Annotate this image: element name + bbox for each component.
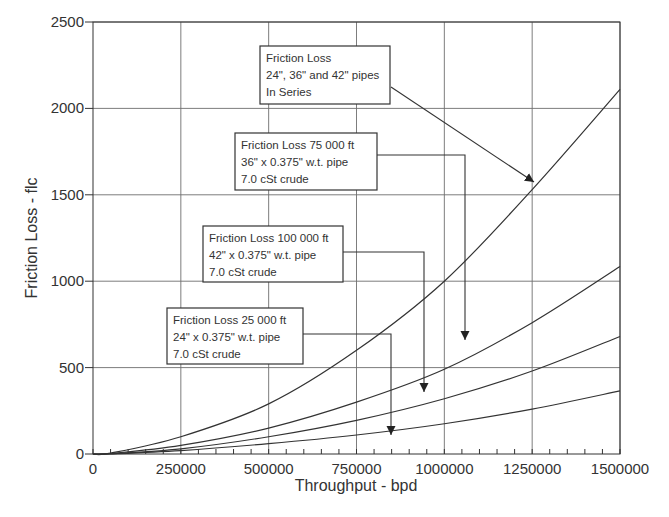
callout-arrow — [377, 155, 465, 340]
callout-text-line: In Series — [266, 86, 312, 98]
callout-text-line: 7.0 cSt crude — [241, 173, 309, 185]
callout-annotations: Friction Loss24", 36" and 42" pipesIn Se… — [167, 46, 534, 435]
callout-text-line: 24" x 0.375" w.t. pipe — [173, 331, 280, 343]
y-tick-label: 2000 — [51, 99, 84, 116]
y-axis-title: Friction Loss - flc — [23, 178, 40, 299]
callout-arrow — [303, 334, 391, 435]
friction-loss-chart: 0500100015002000250002500005000007500001… — [0, 0, 669, 517]
callout-text-line: 36" x 0.375" w.t. pipe — [241, 156, 348, 168]
callout-arrow — [391, 87, 534, 182]
x-tick-label: 1500000 — [591, 460, 649, 477]
callout-text-line: 7.0 cSt crude — [209, 266, 277, 278]
y-tick-label: 2500 — [51, 13, 84, 30]
y-tick-label: 500 — [59, 359, 84, 376]
y-tick-label: 0 — [76, 445, 84, 462]
x-tick-label: 500000 — [244, 460, 294, 477]
x-axis-title: Throughput - bpd — [295, 477, 418, 494]
callout-3: Friction Loss 25 000 ft24" x 0.375" w.t.… — [167, 308, 391, 435]
x-tick-label: 750000 — [331, 460, 381, 477]
callout-arrow — [343, 252, 424, 392]
callout-text-line: Friction Loss 100 000 ft — [209, 232, 329, 244]
y-tick-label: 1000 — [51, 272, 84, 289]
y-tick-label: 1500 — [51, 186, 84, 203]
x-tick-label: 0 — [89, 460, 97, 477]
callout-text-line: 42" x 0.375" w.t. pipe — [209, 249, 316, 261]
callout-text-line: 24", 36" and 42" pipes — [266, 69, 380, 81]
callout-text-line: Friction Loss — [266, 52, 331, 64]
callout-text-line: 7.0 cSt crude — [173, 348, 241, 360]
callout-text-line: Friction Loss 25 000 ft — [173, 314, 287, 326]
x-tick-label: 1000000 — [415, 460, 473, 477]
x-tick-label: 1250000 — [503, 460, 561, 477]
callout-text-line: Friction Loss 75 000 ft — [241, 139, 355, 151]
x-tick-label: 250000 — [156, 460, 206, 477]
